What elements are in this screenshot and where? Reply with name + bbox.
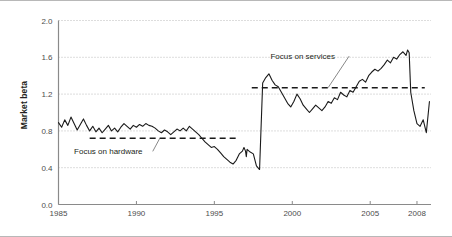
chart-figure: Market beta 0.00.40.81.21.62.0 198519901… [0, 0, 452, 237]
focus-on-hardware-annotation: Focus on hardware [74, 147, 143, 156]
x-tick-label: 1990 [128, 209, 146, 218]
y-tick-label: 0.8 [41, 127, 53, 136]
x-tick-group: 198519901995200020052008 [50, 201, 427, 218]
focus-on-services-annotation: Focus on services [270, 52, 334, 61]
gridlines-group [59, 21, 432, 168]
x-tick-label: 2008 [408, 209, 426, 218]
chart-plot-area: 0.00.40.81.21.62.0 198519901995200020052… [0, 0, 452, 237]
y-tick-label: 0.4 [41, 164, 53, 173]
x-tick-label: 2005 [361, 209, 379, 218]
x-tick-label: 1985 [50, 209, 68, 218]
y-tick-label: 1.2 [41, 90, 53, 99]
focus-on-hardware-annotation-leader [153, 138, 160, 151]
x-tick-label: 1995 [205, 209, 223, 218]
y-tick-label: 1.6 [41, 53, 53, 62]
annotations-group: Focus on hardwareFocus on services [74, 52, 349, 156]
x-tick-label: 2000 [283, 209, 301, 218]
y-tick-group: 0.00.40.81.21.62.0 [41, 17, 53, 210]
axis-lines-group [59, 21, 432, 205]
y-tick-label: 2.0 [41, 17, 53, 26]
